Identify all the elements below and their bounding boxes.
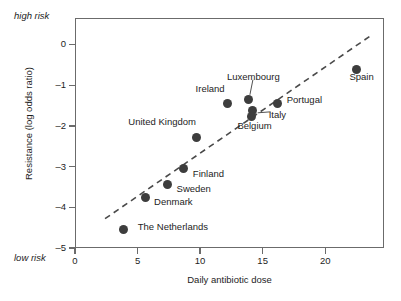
- data-point-label: Ireland: [196, 84, 225, 94]
- data-point-label: Belgium: [237, 121, 271, 131]
- data-point-label: Spain: [349, 72, 373, 82]
- data-point-label: The Netherlands: [138, 222, 208, 232]
- data-point-label: Denmark: [154, 197, 193, 207]
- data-point-label: Sweden: [177, 184, 211, 194]
- data-point-label: Luxembourg: [227, 72, 280, 82]
- data-point-label: Italy: [269, 110, 286, 120]
- data-point-label: Finland: [193, 169, 224, 179]
- data-labels-layer: The NetherlandsDenmarkSwedenFinlandUnite…: [0, 0, 401, 301]
- data-point-label: Portugal: [287, 95, 322, 105]
- data-point-label: United Kingdom: [128, 117, 196, 127]
- scatter-plot-figure: high risk low risk Resistance (log odds …: [0, 0, 401, 301]
